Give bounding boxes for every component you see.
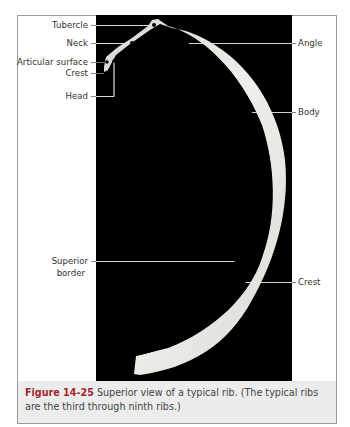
figure-number: Figure 14-25: [25, 387, 94, 398]
label-superior-border-line1: Superior: [52, 256, 88, 266]
rib-bone: [104, 19, 286, 375]
label-articular-surface: Articular surface: [17, 57, 88, 67]
label-tubercle: Tubercle: [52, 20, 88, 30]
label-head: Head: [66, 91, 88, 101]
label-body: Body: [298, 107, 320, 117]
figure-caption: Figure 14-25 Superior view of a typical …: [18, 381, 336, 423]
label-crest-right: Crest: [298, 277, 320, 287]
label-superior-border-line2: border: [57, 268, 85, 278]
label-angle: Angle: [298, 38, 322, 48]
leader-lines: [91, 26, 296, 283]
label-crest-left: Crest: [66, 68, 88, 78]
label-neck: Neck: [67, 38, 88, 48]
